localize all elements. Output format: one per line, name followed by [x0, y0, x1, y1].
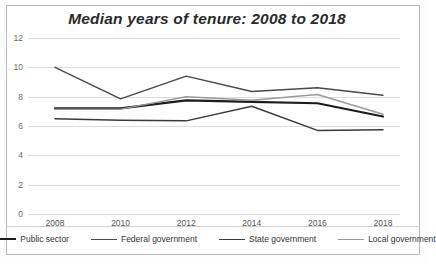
y-axis-tick-label: 12 — [14, 33, 23, 43]
legend-line-swatch — [338, 239, 364, 240]
series-lines-group — [28, 38, 400, 214]
y-axis-tick-label: 8 — [18, 92, 23, 102]
legend-label: Public sector — [20, 234, 69, 244]
y-axis-tick-label: 0 — [18, 209, 23, 219]
series-line — [55, 67, 383, 99]
gridline — [28, 214, 400, 215]
y-axis-tick-label: 10 — [14, 62, 23, 72]
y-axis-tick-label: 4 — [18, 150, 23, 160]
chart-legend: Public sectorFederal governmentState gov… — [6, 228, 420, 250]
y-axis-tick-label: 2 — [18, 180, 23, 190]
legend-divider — [6, 226, 420, 227]
legend-label: Federal government — [121, 234, 197, 244]
legend-item[interactable]: State government — [219, 234, 316, 244]
series-line — [55, 94, 383, 114]
plot-area: 024681012 200820102012201420162018 — [28, 38, 400, 214]
y-axis-tick-label: 6 — [18, 121, 23, 131]
legend-line-swatch — [219, 239, 245, 240]
chart-title: Median years of tenure: 2008 to 2018 — [0, 10, 414, 28]
legend-item[interactable]: Local government — [338, 234, 436, 244]
legend-label: State government — [249, 234, 316, 244]
legend-item[interactable]: Federal government — [91, 234, 197, 244]
legend-line-swatch — [0, 238, 16, 240]
legend-label: Local government — [368, 234, 436, 244]
legend-line-swatch — [91, 239, 117, 240]
legend-item[interactable]: Public sector — [0, 234, 69, 244]
